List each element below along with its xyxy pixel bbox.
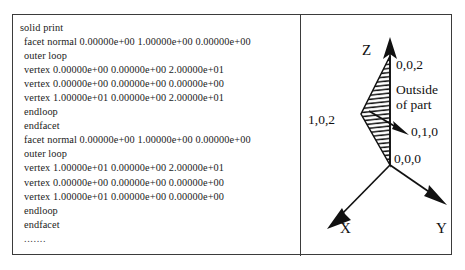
- stl-format-figure: solid print facet normal 0.00000e+00 1.0…: [0, 0, 465, 270]
- vertex-label-left: 1,0,2: [308, 113, 335, 128]
- axes-diagram-panel: Z X Y 0,0,2 1,0,2 0,0,0 Outside of part …: [300, 15, 451, 256]
- stl-line: endloop: [20, 204, 300, 218]
- stl-line: outer loop: [20, 147, 300, 161]
- stl-line: endfacet: [20, 218, 300, 232]
- stl-line: vertex 0.00000e+00 0.00000e+00 0.00000e+…: [20, 176, 300, 190]
- z-axis-label: Z: [362, 43, 371, 58]
- hatched-facet-triangle: [361, 56, 390, 165]
- stl-line: vertex 1.00000e+01 0.00000e+00 0.00000e+…: [20, 190, 300, 204]
- stl-line: endloop: [20, 105, 300, 119]
- stl-line: endfacet: [20, 119, 300, 133]
- stl-line-ellipsis: .......: [20, 232, 300, 246]
- outside-note-line-1: Outside: [396, 83, 438, 98]
- normal-vector-label: 0,1,0: [411, 125, 438, 140]
- x-axis: [327, 165, 390, 229]
- vertex-label-top: 0,0,2: [396, 58, 423, 73]
- stl-listing-panel: solid print facet normal 0.00000e+00 1.0…: [13, 15, 300, 256]
- stl-line: vertex 1.00000e+01 0.00000e+00 2.00000e+…: [20, 91, 300, 105]
- figure-frame: solid print facet normal 0.00000e+00 1.0…: [12, 14, 452, 255]
- vertex-label-origin: 0,0,0: [394, 152, 421, 167]
- stl-line: outer loop: [20, 49, 300, 63]
- y-axis: [390, 165, 447, 205]
- stl-line: vertex 0.00000e+00 0.00000e+00 0.00000e+…: [20, 77, 300, 91]
- y-axis-label: Y: [436, 221, 447, 236]
- stl-line: facet normal 0.00000e+00 1.00000e+00 0.0…: [20, 35, 300, 49]
- stl-line: solid print: [20, 21, 300, 35]
- stl-line: vertex 1.00000e+01 0.00000e+00 2.00000e+…: [20, 161, 300, 175]
- x-axis-label: X: [340, 221, 351, 236]
- stl-line: facet normal 0.00000e+00 1.00000e+00 0.0…: [20, 133, 300, 147]
- stl-line: vertex 0.00000e+00 0.00000e+00 2.00000e+…: [20, 63, 300, 77]
- outside-note-line-2: of part: [396, 98, 432, 113]
